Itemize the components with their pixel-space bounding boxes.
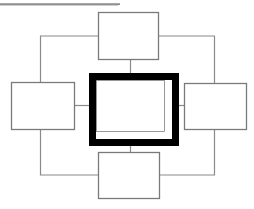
node-box-left[interactable] bbox=[12, 83, 75, 130]
node-box-bottom[interactable] bbox=[99, 153, 160, 199]
diagram-canvas bbox=[0, 0, 254, 209]
node-box-center[interactable] bbox=[93, 77, 176, 143]
block-diagram bbox=[0, 0, 254, 209]
node-box-top[interactable] bbox=[99, 13, 159, 60]
node-box-right[interactable] bbox=[185, 84, 247, 130]
node-box-center-group bbox=[93, 77, 176, 143]
